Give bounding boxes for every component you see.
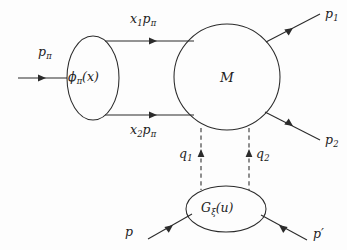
gluon-2-label: q2 (256, 148, 269, 161)
incoming-nucleon-label: p (125, 226, 133, 239)
outgoing-nucleon-label: p′ (313, 228, 324, 241)
gluon-2-arrow-icon (246, 149, 253, 157)
feynman-diagram: pπ ϕπ(x) x1pπ x2pπ M p1 p2 q1 q2 Gξ(u) p… (0, 0, 347, 250)
upper-quark-arrow-icon (149, 37, 157, 44)
pion-blob-label: ϕπ(x) (68, 71, 99, 84)
incoming-pion-label: pπ (38, 46, 52, 59)
gluon-1-arrow-icon (198, 149, 205, 157)
outgoing-p2-label: p2 (325, 134, 338, 147)
incoming-pion-arrow-icon (38, 74, 46, 81)
diagram-canvas (0, 0, 347, 250)
outgoing-p2-line (265, 112, 320, 140)
gluon-1-label: q1 (179, 148, 192, 161)
lower-quark-label: x2pπ (130, 124, 156, 137)
upper-quark-label: x1pπ (130, 13, 156, 26)
lower-quark-arrow-icon (149, 111, 157, 118)
nucleon-formfactor-label: Gξ(u) (201, 202, 233, 215)
hard-kernel-label: M (220, 71, 234, 85)
outgoing-p1-label: p1 (325, 8, 338, 21)
